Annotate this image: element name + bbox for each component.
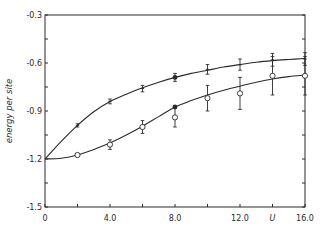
y-tick-label: -1.2 [26, 155, 42, 164]
y-tick-label: -1.5 [26, 203, 42, 212]
plot-area [45, 53, 308, 159]
open-circle-marker [140, 124, 145, 129]
y-tick-label: -0.6 [26, 59, 42, 68]
x-tick-label: 16.0 [296, 214, 314, 223]
x-tick-label: 0 [42, 214, 47, 223]
x-axis-label: U [270, 214, 276, 223]
filled-circle-marker [173, 75, 178, 80]
open-circle-marker [75, 152, 80, 157]
x-tick-label: 12.0 [231, 214, 249, 223]
x-tick-label: 8.0 [169, 214, 182, 223]
energy-chart: 04.08.012.016.0U-0.3-0.6-0.9-1.2-1.5 ene… [0, 0, 324, 230]
open-circle-marker [270, 73, 275, 78]
axes: 04.08.012.016.0U-0.3-0.6-0.9-1.2-1.5 [26, 11, 314, 223]
chart-container: 04.08.012.016.0U-0.3-0.6-0.9-1.2-1.5 ene… [0, 0, 324, 230]
x-tick-label: 4.0 [104, 214, 117, 223]
open-circle-marker [172, 115, 177, 120]
open-circle-marker [237, 91, 242, 96]
y-tick-label: -0.9 [26, 107, 42, 116]
filled-circle-marker [173, 105, 178, 110]
y-axis-label: energy per site [4, 79, 14, 144]
open-circle-marker [107, 142, 112, 147]
open-circle-marker [205, 96, 210, 101]
open-circle-marker [302, 73, 307, 78]
y-tick-label: -0.3 [26, 11, 42, 20]
